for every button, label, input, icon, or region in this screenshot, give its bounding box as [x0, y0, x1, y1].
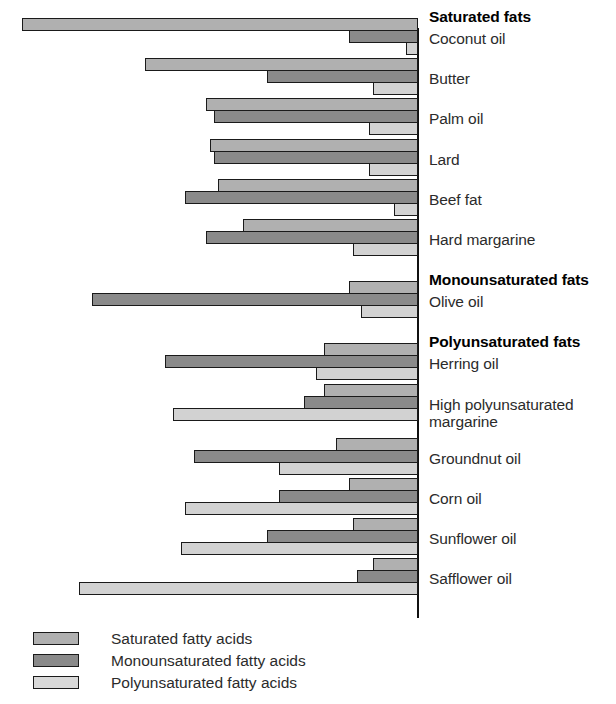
bar-poly [394, 203, 418, 216]
bar-poly [369, 122, 418, 135]
group-heading: Monounsaturated fats [429, 271, 589, 288]
category-label: Herring oil [429, 355, 499, 372]
plot-area [0, 0, 420, 625]
category-label: Corn oil [429, 490, 482, 507]
category-label: Butter [429, 70, 470, 87]
category-label: High polyunsaturated margarine [429, 396, 574, 430]
category-label: Groundnut oil [429, 450, 521, 467]
bar-poly [373, 82, 418, 95]
category-label: Olive oil [429, 293, 483, 310]
chart-legend: Saturated fatty acidsMonounsaturated fat… [0, 628, 616, 704]
bar-poly [316, 367, 418, 380]
bar-poly [369, 163, 418, 176]
category-labels: Saturated fatsCoconut oilButterPalm oilL… [429, 0, 616, 625]
legend-label: Polyunsaturated fatty acids [111, 672, 297, 693]
legend-swatch-mono [33, 654, 79, 667]
category-label: Coconut oil [429, 30, 505, 47]
group-heading: Saturated fats [429, 8, 531, 25]
legend-swatch-poly [33, 676, 79, 689]
group-heading: Polyunsaturated fats [429, 333, 580, 350]
bar-poly [279, 462, 418, 475]
bar-poly [185, 502, 418, 515]
bar-poly [361, 305, 418, 318]
bar-poly [173, 408, 418, 421]
category-label: Sunflower oil [429, 530, 516, 547]
bar-poly [79, 582, 418, 595]
legend-label: Saturated fatty acids [111, 628, 252, 649]
bar-poly [406, 42, 418, 55]
category-label: Lard [429, 151, 460, 168]
fatty-acid-composition-chart: Saturated fatsCoconut oilButterPalm oilL… [0, 0, 616, 704]
legend-label: Monounsaturated fatty acids [111, 650, 306, 671]
category-label: Safflower oil [429, 570, 512, 587]
legend-swatch-sat [33, 632, 79, 645]
category-label: Beef fat [429, 191, 482, 208]
bar-poly [181, 542, 418, 555]
category-label: Palm oil [429, 110, 483, 127]
category-label: Hard margarine [429, 231, 535, 248]
bar-mono [185, 191, 418, 204]
bar-poly [353, 243, 418, 256]
